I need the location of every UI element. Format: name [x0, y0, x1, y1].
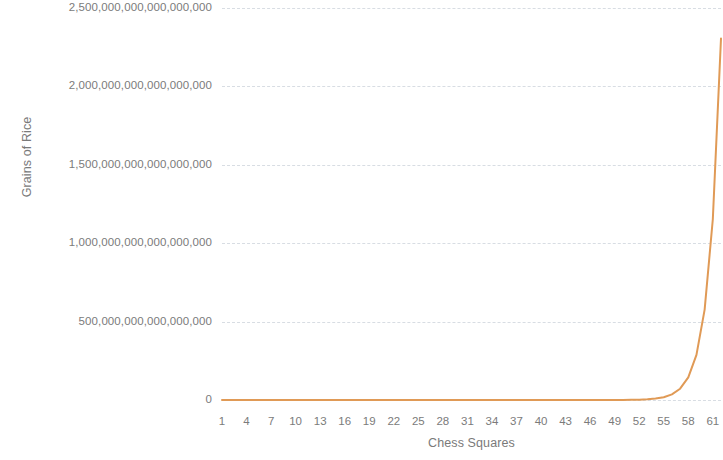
x-tick-label: 4: [236, 414, 258, 428]
x-tick-label: 31: [456, 414, 478, 428]
x-tick-label: 58: [677, 414, 699, 428]
x-tick-label: 13: [309, 414, 331, 428]
x-tick-label: 25: [407, 414, 429, 428]
x-tick-label: 52: [628, 414, 650, 428]
series-line-grains-of-rice: [222, 8, 721, 400]
x-tick-label: 43: [555, 414, 577, 428]
x-tick-label: 49: [604, 414, 626, 428]
y-tick-label: 2,500,000,000,000,000,000: [0, 1, 212, 13]
x-tick-label: 34: [481, 414, 503, 428]
x-tick-label: 46: [579, 414, 601, 428]
x-axis-tick-labels: 147101316192225283134374043464952555861: [222, 414, 721, 432]
y-tick-label: 2,000,000,000,000,000,000: [0, 79, 212, 91]
y-axis-tick-labels: 2,500,000,000,000,000,000 2,000,000,000,…: [0, 0, 212, 460]
y-tick-label: 500,000,000,000,000,000: [0, 315, 212, 327]
x-tick-label: 61: [702, 414, 723, 428]
x-tick-label: 22: [383, 414, 405, 428]
x-tick-label: 55: [653, 414, 675, 428]
x-tick-label: 28: [432, 414, 454, 428]
y-tick-label: 1,000,000,000,000,000,000: [0, 236, 212, 248]
x-axis-title: Chess Squares: [222, 436, 721, 450]
x-tick-label: 19: [358, 414, 380, 428]
y-tick-label: 1,500,000,000,000,000,000: [0, 158, 212, 170]
x-tick-label: 10: [285, 414, 307, 428]
plot-area: [222, 8, 721, 400]
x-tick-label: 7: [260, 414, 282, 428]
y-tick-label: 0: [0, 393, 212, 405]
x-tick-label: 1: [211, 414, 233, 428]
x-tick-label: 16: [334, 414, 356, 428]
chart-container: Grains of Rice 2,500,000,000,000,000,000…: [0, 0, 723, 460]
x-tick-label: 40: [530, 414, 552, 428]
x-tick-label: 37: [505, 414, 527, 428]
